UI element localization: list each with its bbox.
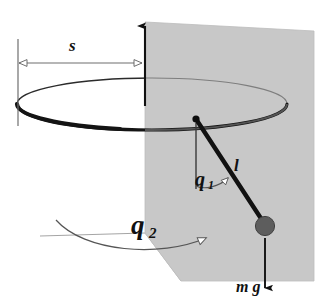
vertical-plane [145,22,314,281]
pendulum-diagram-canvas: s l q 1 q 2 m g [0,0,317,304]
label-radius-s: s [68,36,76,55]
label-length-l: l [234,156,239,175]
pivot-point [192,115,199,122]
pendulum-figure: s l q 1 q 2 m g [0,0,317,304]
label-angle-q2-subscript: 2 [148,225,157,241]
label-angle-q2-letter: q [131,210,145,240]
pendulum-bob [255,216,274,235]
label-weight-mg: m g [236,278,260,296]
label-angle-q1-letter: q [195,168,205,191]
label-angle-q1-subscript: 1 [208,178,214,192]
